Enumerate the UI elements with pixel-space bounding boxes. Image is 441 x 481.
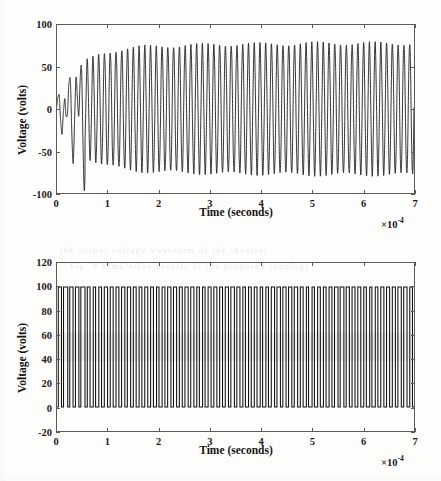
top-x-tick [364, 24, 365, 28]
pwm-voltage-figure: 01234567 -20020406080100120 Time (second… [0, 240, 441, 481]
inverter-output-voltage-figure: 01234567 -100-50050100 Time (seconds) Vo… [0, 0, 441, 240]
bot-x-tick [210, 428, 211, 432]
bot-x-tick [261, 262, 262, 266]
bot-y-tick [411, 262, 415, 263]
top-x-tick [159, 24, 160, 28]
bottom-x-exponent-power: -4 [397, 454, 403, 463]
top-x-tick-label: 0 [53, 198, 58, 209]
bot-y-tick [56, 383, 60, 384]
top-x-tick-label: 1 [105, 198, 110, 209]
top-y-tick-label: 50 [18, 61, 52, 72]
bot-x-tick [312, 428, 313, 432]
bot-x-tick [261, 428, 262, 432]
bot-y-tick [56, 432, 60, 433]
bot-x-tick [364, 428, 365, 432]
top-x-tick [415, 24, 416, 28]
top-y-tick [411, 24, 415, 25]
bot-y-tick [411, 432, 415, 433]
top-y-tick [411, 152, 415, 153]
top-x-tick [312, 24, 313, 28]
bot-y-tick [56, 335, 60, 336]
top-y-tick [411, 109, 415, 110]
bot-y-tick [411, 311, 415, 312]
figure-page: the output voltage waveform of the inver… [0, 0, 441, 481]
top-x-exponent-power: -4 [397, 216, 403, 225]
top-x-tick [261, 190, 262, 194]
top-y-tick [56, 24, 60, 25]
top-y-tick [56, 67, 60, 68]
top-x-tick [261, 24, 262, 28]
bot-x-tick [107, 428, 108, 432]
bot-y-tick-label: 0 [18, 402, 52, 413]
bottom-x-axis-title: Time (seconds) [199, 444, 273, 456]
bot-x-tick-label: 6 [361, 436, 366, 447]
bottom-plot-area [56, 262, 415, 432]
bot-x-tick-label: 5 [310, 436, 315, 447]
top-x-tick-label: 7 [412, 198, 417, 209]
top-x-tick [312, 190, 313, 194]
bot-y-tick [411, 359, 415, 360]
bot-y-tick [411, 408, 415, 409]
top-x-tick-label: 6 [361, 198, 366, 209]
top-x-tick [210, 190, 211, 194]
bottom-density-haze [57, 333, 414, 362]
bot-y-tick [411, 335, 415, 336]
bot-y-tick [56, 262, 60, 263]
bot-y-tick-label: 80 [18, 305, 52, 316]
top-x-tick [159, 190, 160, 194]
top-trace-path [57, 42, 414, 191]
top-y-tick [411, 67, 415, 68]
bot-x-tick-label: 0 [53, 436, 58, 447]
top-y-tick [56, 109, 60, 110]
bot-y-tick [56, 311, 60, 312]
bot-y-tick [56, 286, 60, 287]
bot-y-tick-label: 100 [18, 281, 52, 292]
bot-y-tick [56, 408, 60, 409]
bottom-waveform [57, 263, 414, 431]
bot-x-tick [210, 262, 211, 266]
bot-y-tick-label: 120 [18, 257, 52, 268]
top-y-axis-title: Voltage (volts) [16, 85, 28, 155]
top-y-tick [56, 194, 60, 195]
bot-y-tick [411, 286, 415, 287]
top-waveform [57, 25, 414, 193]
bottom-x-exponent: ×10-4 [381, 454, 404, 468]
bot-x-tick [159, 428, 160, 432]
bot-y-tick [411, 383, 415, 384]
top-x-exponent-base: 10 [387, 219, 398, 230]
top-x-tick [210, 24, 211, 28]
top-plot-area [56, 24, 415, 194]
top-x-tick-label: 2 [156, 198, 161, 209]
top-x-tick [107, 190, 108, 194]
bot-x-tick [107, 262, 108, 266]
bot-x-tick [159, 262, 160, 266]
bot-x-tick-label: 2 [156, 436, 161, 447]
bot-x-tick [415, 262, 416, 266]
top-y-tick-label: -100 [18, 189, 52, 200]
top-y-tick [411, 194, 415, 195]
bot-x-tick [364, 262, 365, 266]
top-x-tick [107, 24, 108, 28]
bot-y-tick-label: -20 [18, 427, 52, 438]
top-y-tick [56, 152, 60, 153]
top-x-tick [415, 190, 416, 194]
bot-y-tick [56, 359, 60, 360]
bot-x-tick [312, 262, 313, 266]
top-x-tick-label: 5 [310, 198, 315, 209]
top-x-tick [364, 190, 365, 194]
top-y-tick-label: 100 [18, 19, 52, 30]
top-x-axis-title: Time (seconds) [199, 206, 273, 218]
bot-x-tick [415, 428, 416, 432]
top-x-exponent: ×10-4 [381, 216, 404, 230]
bottom-y-axis-title: Voltage (volts) [16, 323, 28, 393]
bottom-x-exponent-base: 10 [387, 457, 398, 468]
bot-x-tick-label: 7 [412, 436, 417, 447]
bot-x-tick-label: 1 [105, 436, 110, 447]
